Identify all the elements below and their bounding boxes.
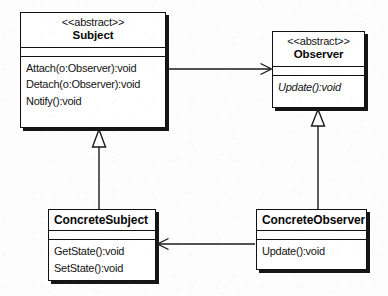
stereotype-label-observer: <<abstract>>	[277, 35, 360, 48]
class-header-concrete-subject: ConcreteSubject	[49, 210, 155, 230]
connector-concreteobserver-to-concretesubject[interactable]	[158, 239, 256, 250]
attributes-compartment-concrete-observer	[257, 230, 366, 239]
attributes-compartment-observer	[273, 66, 364, 75]
class-name-observer: Observer	[277, 48, 360, 62]
operation-attach: Attach(o:Observer):void	[26, 60, 165, 77]
class-header-subject: <<abstract>> Subject	[21, 13, 165, 47]
class-box-observer[interactable]: <<abstract>> Observer Update():void	[272, 31, 365, 108]
operation-update-concrete: Update():void	[262, 243, 366, 260]
class-name-concrete-observer: ConcreteObserver	[262, 213, 362, 227]
class-header-observer: <<abstract>> Observer	[273, 32, 364, 66]
attributes-compartment-concrete-subject	[49, 230, 155, 239]
stereotype-label-subject: <<abstract>>	[25, 16, 161, 29]
class-box-concrete-observer[interactable]: ConcreteObserver Update():void	[256, 209, 367, 270]
connector-concreteobserver-to-observer[interactable]	[312, 110, 325, 210]
connector-subject-to-observer[interactable]	[167, 64, 272, 75]
operation-notify: Notify():void	[26, 93, 165, 110]
operations-compartment-concrete-observer: Update():void	[257, 239, 366, 264]
class-box-subject[interactable]: <<abstract>> Subject Attach(o:Observer):…	[20, 12, 166, 128]
attributes-compartment-subject	[21, 47, 165, 56]
class-name-concrete-subject: ConcreteSubject	[54, 213, 151, 227]
operations-compartment-subject: Attach(o:Observer):void Detach(o:Observe…	[21, 56, 165, 114]
operation-update-abstract: Update():void	[278, 79, 364, 96]
class-box-concrete-subject[interactable]: ConcreteSubject GetState():void SetState…	[48, 209, 156, 281]
connector-concretesubject-to-subject[interactable]	[93, 130, 106, 210]
operation-detach: Detach(o:Observer):void	[26, 76, 165, 93]
operations-compartment-concrete-subject: GetState():void SetState():void	[49, 239, 155, 280]
operations-compartment-observer: Update():void	[273, 75, 364, 100]
class-name-subject: Subject	[25, 29, 161, 43]
uml-class-diagram-canvas: <<abstract>> Subject Attach(o:Observer):…	[0, 0, 388, 296]
operation-setstate: SetState():void	[54, 260, 155, 277]
class-header-concrete-observer: ConcreteObserver	[257, 210, 366, 230]
operation-getstate: GetState():void	[54, 243, 155, 260]
